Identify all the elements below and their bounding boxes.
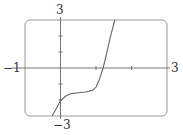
y-max-label: 3 (56, 4, 64, 16)
plot-area (0, 0, 183, 135)
graph-viewport: −1 3 3 −3 (0, 0, 183, 135)
y-min-label: −3 (53, 119, 71, 131)
x-min-label: −1 (3, 62, 21, 74)
x-max-label: 3 (171, 62, 179, 74)
